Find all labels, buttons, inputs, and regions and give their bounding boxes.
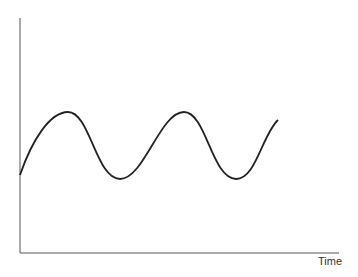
signal-curve	[20, 112, 278, 179]
x-axis-label: Time	[318, 255, 342, 267]
chart-canvas	[0, 0, 358, 277]
